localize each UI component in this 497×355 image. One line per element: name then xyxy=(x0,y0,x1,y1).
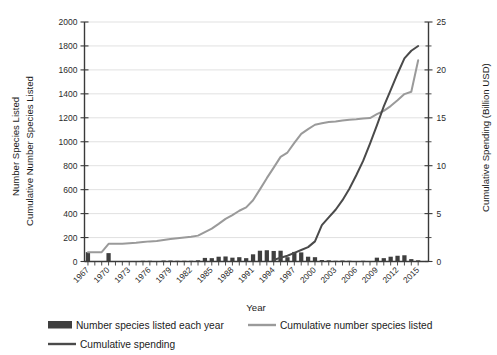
bar xyxy=(402,255,406,261)
legend-label-cumulative-spending: Cumulative spending xyxy=(80,339,175,350)
svg-text:2000: 2000 xyxy=(59,17,78,27)
svg-text:1988: 1988 xyxy=(215,265,235,285)
svg-text:0: 0 xyxy=(73,257,78,267)
chart-legend: Number species listed each year Cumulati… xyxy=(48,320,433,350)
line-series-cumulative-spending xyxy=(274,46,418,260)
bar-series-number-species-listed-each-year xyxy=(86,250,421,262)
bar xyxy=(86,252,90,261)
bar xyxy=(251,254,255,261)
svg-text:2009: 2009 xyxy=(360,265,380,285)
line-series-cumulative-number-species-listed xyxy=(88,60,418,252)
svg-text:5: 5 xyxy=(437,209,442,219)
gridlines xyxy=(85,22,429,238)
svg-text:15: 15 xyxy=(437,113,447,123)
svg-text:200: 200 xyxy=(63,233,77,243)
svg-text:1967: 1967 xyxy=(71,265,91,285)
bar xyxy=(258,251,262,262)
svg-text:1991: 1991 xyxy=(236,265,256,285)
x-axis-title: Year xyxy=(246,302,266,313)
svg-text:1994: 1994 xyxy=(256,265,276,285)
svg-text:2015: 2015 xyxy=(401,265,421,285)
svg-text:2012: 2012 xyxy=(380,265,400,285)
svg-text:2003: 2003 xyxy=(318,265,338,285)
svg-text:1973: 1973 xyxy=(112,265,132,285)
bar xyxy=(395,256,399,262)
svg-text:10: 10 xyxy=(437,161,447,171)
svg-text:1982: 1982 xyxy=(174,265,194,285)
bar xyxy=(106,253,110,261)
legend-swatch-bar xyxy=(48,321,72,329)
svg-text:25: 25 xyxy=(437,17,447,27)
chart-figure: 0200400600800100012001400160018002000 05… xyxy=(0,0,497,355)
y-axis-left-title-line2: Cumulative Number Species Listed xyxy=(24,76,35,226)
svg-text:1800: 1800 xyxy=(59,41,78,51)
svg-text:1400: 1400 xyxy=(59,89,78,99)
y-axis-left-title-line1: Number Species Listed xyxy=(10,97,21,196)
bar xyxy=(299,252,303,261)
y-axis-right-title: Cumulative Spending (Billion USD) xyxy=(480,63,491,212)
chart-svg: 0200400600800100012001400160018002000 05… xyxy=(0,0,497,355)
svg-text:20: 20 xyxy=(437,65,447,75)
bar xyxy=(223,256,227,261)
svg-text:600: 600 xyxy=(63,185,77,195)
bar xyxy=(306,257,310,262)
svg-text:800: 800 xyxy=(63,161,77,171)
legend-label-number-species-listed-each-year: Number species listed each year xyxy=(76,320,224,331)
y-axis-right-ticks: 0510152025 xyxy=(425,17,447,267)
svg-text:1200: 1200 xyxy=(59,113,78,123)
bar xyxy=(265,250,269,261)
svg-text:1976: 1976 xyxy=(133,265,153,285)
svg-text:1985: 1985 xyxy=(195,265,215,285)
bar xyxy=(278,251,282,262)
svg-text:1970: 1970 xyxy=(91,265,111,285)
svg-text:2000: 2000 xyxy=(298,265,318,285)
bar xyxy=(217,257,221,262)
svg-text:0: 0 xyxy=(437,257,442,267)
bar xyxy=(389,257,393,262)
svg-text:2006: 2006 xyxy=(339,265,359,285)
legend-label-cumulative-number-species-listed: Cumulative number species listed xyxy=(280,320,433,331)
svg-text:1000: 1000 xyxy=(59,137,78,147)
svg-text:400: 400 xyxy=(63,209,77,219)
x-axis-tick-labels: 1967197019731976197919821985198819911994… xyxy=(71,265,422,285)
svg-text:1997: 1997 xyxy=(277,265,297,285)
svg-text:1600: 1600 xyxy=(59,65,78,75)
svg-text:1979: 1979 xyxy=(153,265,173,285)
